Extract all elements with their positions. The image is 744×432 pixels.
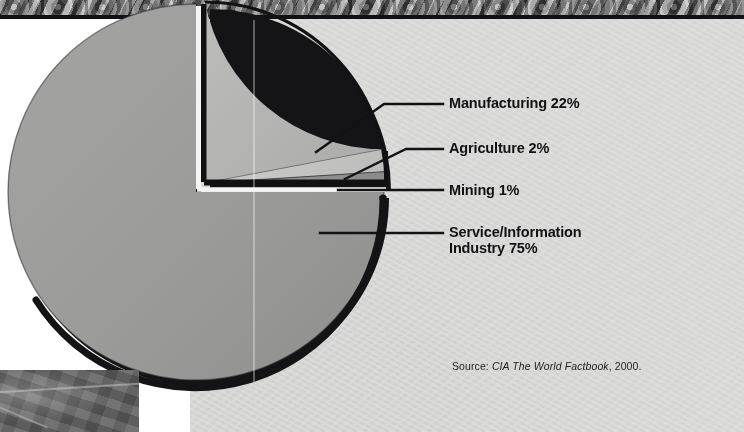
pie-label-service: Service/Information Industry 75% — [449, 225, 582, 256]
pie-label-manufacturing: Manufacturing 22% — [449, 96, 579, 112]
source-note: Source: CIA The World Factbook, 2000. — [452, 360, 642, 372]
pie-label-mining: Mining 1% — [449, 183, 519, 199]
source-title: CIA The World Factbook — [492, 360, 609, 372]
pie-label-agriculture: Agriculture 2% — [449, 141, 549, 157]
photo-fragment-texture — [0, 370, 139, 432]
decorative-top-band — [0, 0, 744, 15]
source-suffix: , 2000. — [609, 360, 642, 372]
photo-fragment — [0, 370, 139, 432]
source-prefix: Source: — [452, 360, 489, 372]
decorative-band-pattern — [0, 0, 744, 15]
